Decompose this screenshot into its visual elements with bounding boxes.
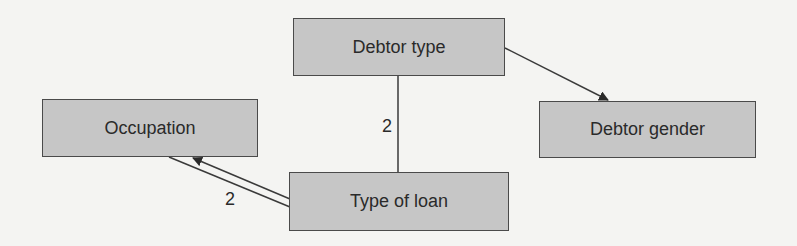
node-debtor-type[interactable]: Debtor type	[293, 18, 505, 76]
edge-debtor-type-to-debtor-gender	[505, 48, 608, 100]
node-type-of-loan[interactable]: Type of loan	[289, 172, 509, 231]
node-label: Occupation	[104, 118, 195, 139]
edge-label-type-of-loan-to-occupation: 2	[225, 189, 235, 210]
node-occupation[interactable]: Occupation	[42, 99, 258, 157]
node-label: Debtor type	[352, 37, 445, 58]
node-label: Type of loan	[350, 191, 448, 212]
node-label: Debtor gender	[590, 119, 705, 140]
node-debtor-gender[interactable]: Debtor gender	[539, 101, 756, 158]
edge-label-debtor-type-to-type-of-loan: 2	[382, 116, 392, 137]
